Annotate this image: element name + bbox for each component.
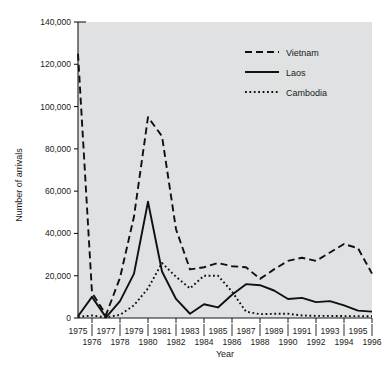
x-tick-label-top: 1983 (181, 326, 200, 336)
chart-figure: 020,00040,00060,00080,000100,000120,0001… (0, 0, 390, 380)
x-tick-label-top: 1989 (265, 326, 284, 336)
x-tick-label-bottom: 1982 (167, 337, 186, 347)
x-tick-label-bottom: 1994 (335, 337, 354, 347)
y-tick-label: 120,000 (40, 59, 71, 69)
x-tick-label-top: 1985 (209, 326, 228, 336)
x-tick-label-bottom: 1992 (307, 337, 326, 347)
x-tick-label-bottom: 1980 (139, 337, 158, 347)
x-tick-label-top: 1977 (97, 326, 116, 336)
y-tick-label: 60,000 (45, 186, 71, 196)
y-tick-label: 100,000 (40, 102, 71, 112)
y-tick-label: 20,000 (45, 271, 71, 281)
y-tick-label: 0 (66, 313, 71, 323)
x-tick-label-bottom: 1990 (279, 337, 298, 347)
x-tick-label-bottom: 1996 (363, 337, 382, 347)
y-tick-label: 40,000 (45, 228, 71, 238)
x-tick-label-bottom: 1976 (83, 337, 102, 347)
x-tick-label-bottom: 1984 (195, 337, 214, 347)
x-tick-label-bottom: 1988 (251, 337, 270, 347)
x-tick-label-bottom: 1986 (223, 337, 242, 347)
x-tick-label-top: 1979 (125, 326, 144, 336)
y-tick-label: 80,000 (45, 144, 71, 154)
x-tick-label-top: 1975 (69, 326, 88, 336)
arrivals-line-chart: 020,00040,00060,00080,000100,000120,0001… (0, 0, 390, 380)
x-axis-title: Year (216, 349, 234, 359)
x-tick-label-top: 1991 (293, 326, 312, 336)
plot-area-background (78, 22, 372, 318)
y-tick-label: 140,000 (40, 17, 71, 27)
legend-label-cambodia: Cambodia (286, 88, 327, 98)
x-tick-label-top: 1995 (349, 326, 368, 336)
x-tick-label-top: 1987 (237, 326, 256, 336)
x-tick-label-top: 1981 (153, 326, 172, 336)
legend-label-laos: Laos (286, 68, 306, 78)
x-tick-label-bottom: 1978 (111, 337, 130, 347)
y-axis-title: Number of arrivals (14, 148, 24, 222)
legend-label-vietnam: Vietnam (286, 48, 319, 58)
x-tick-label-top: 1993 (321, 326, 340, 336)
